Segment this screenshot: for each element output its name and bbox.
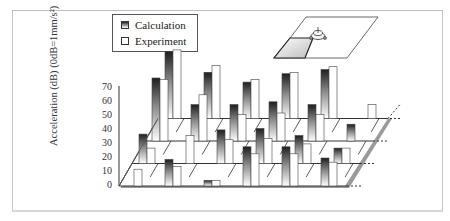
bar-experiment <box>147 148 155 163</box>
bar-experiment <box>316 114 324 141</box>
bar-calculation <box>243 82 251 118</box>
bar-experiment <box>329 67 337 119</box>
bar-experiment <box>173 166 181 186</box>
bar-experiment <box>368 105 376 119</box>
bar-calculation <box>243 147 251 186</box>
bar-experiment <box>173 50 181 119</box>
bar-experiment <box>277 113 285 141</box>
bar-experiment <box>134 169 142 186</box>
bar-calculation <box>165 159 173 186</box>
bar-chart-3d <box>0 0 450 221</box>
bar-calculation <box>204 180 212 186</box>
bar-experiment <box>303 144 311 164</box>
bar-experiment <box>329 162 337 186</box>
inset-floor-diagram <box>274 17 378 58</box>
bar-calculation <box>321 70 329 119</box>
bar-calculation <box>282 147 290 186</box>
bar-calculation <box>152 78 160 141</box>
bar-experiment <box>251 79 259 118</box>
bar-experiment <box>212 180 220 186</box>
bar-calculation <box>230 105 238 141</box>
bar-experiment <box>342 148 350 163</box>
bar-experiment <box>264 138 272 163</box>
plot-area <box>119 50 402 188</box>
bar-calculation <box>217 130 225 164</box>
bar-experiment <box>290 154 298 186</box>
bar-calculation <box>347 124 355 141</box>
bar-calculation <box>308 105 316 141</box>
bar-experiment <box>212 65 220 118</box>
bar-experiment <box>251 154 259 186</box>
bar-experiment <box>290 72 298 118</box>
bar-experiment <box>225 140 233 164</box>
bar-calculation <box>282 74 290 119</box>
bar-calculation <box>334 148 342 163</box>
bar-calculation <box>321 158 329 186</box>
bar-experiment <box>238 114 246 141</box>
bar-experiment <box>160 79 168 141</box>
bar-experiment <box>199 95 207 141</box>
bar-calculation <box>269 102 277 141</box>
bar-experiment <box>186 136 194 164</box>
